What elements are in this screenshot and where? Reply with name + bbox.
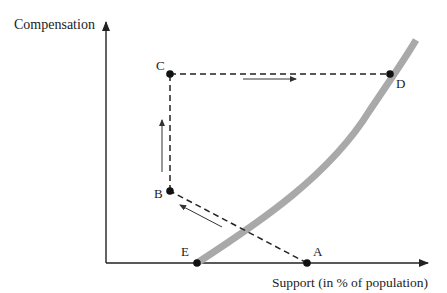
point-b-label: B <box>154 186 163 201</box>
point-e-label: E <box>181 244 189 259</box>
point-a <box>303 259 311 267</box>
point-d <box>386 70 394 78</box>
point-c <box>166 70 174 78</box>
x-axis-label: Support (in % of population) <box>272 275 428 290</box>
adjustment-path <box>170 74 390 263</box>
arrow-a-to-b-icon <box>180 205 222 227</box>
point-c-label: C <box>156 58 165 73</box>
point-e <box>193 259 201 267</box>
y-axis-label: Compensation <box>14 17 95 32</box>
point-b <box>166 187 174 195</box>
diagram-canvas: Compensation Support (in % of population… <box>0 0 447 293</box>
point-a-label: A <box>313 244 323 259</box>
point-d-label: D <box>396 76 405 91</box>
